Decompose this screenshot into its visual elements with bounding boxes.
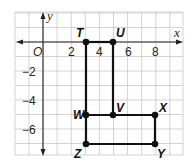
- y-tick-neg2: −2: [22, 65, 36, 79]
- label-Z: Z: [73, 147, 82, 161]
- x-tick-2: 2: [68, 45, 75, 59]
- label-W: W: [73, 108, 86, 122]
- x-axis-left-arrow-icon: [16, 40, 23, 45]
- coordinate-plane: x y O 2 4 6 8 −2 −4 −6 T U V W X Y Z: [0, 0, 194, 167]
- label-U: U: [116, 26, 125, 40]
- label-Y: Y: [157, 147, 166, 161]
- grid: [15, 12, 183, 155]
- y-axis-label: y: [45, 8, 53, 23]
- point-X: [152, 112, 159, 119]
- label-V: V: [116, 101, 125, 115]
- label-X: X: [158, 101, 168, 115]
- point-Z: [83, 141, 90, 148]
- y-tick-neg6: −6: [22, 123, 36, 137]
- x-tick-4: 4: [96, 45, 103, 59]
- x-axis-right-arrow-icon: [176, 40, 183, 45]
- label-T: T: [76, 26, 85, 40]
- x-tick-6: 6: [125, 45, 132, 59]
- x-axis-label: x: [173, 25, 180, 40]
- figure-points: [83, 39, 159, 148]
- y-tick-neg4: −4: [22, 94, 36, 108]
- point-T: [83, 39, 90, 46]
- x-tick-8: 8: [152, 45, 159, 59]
- origin-label: O: [33, 45, 42, 59]
